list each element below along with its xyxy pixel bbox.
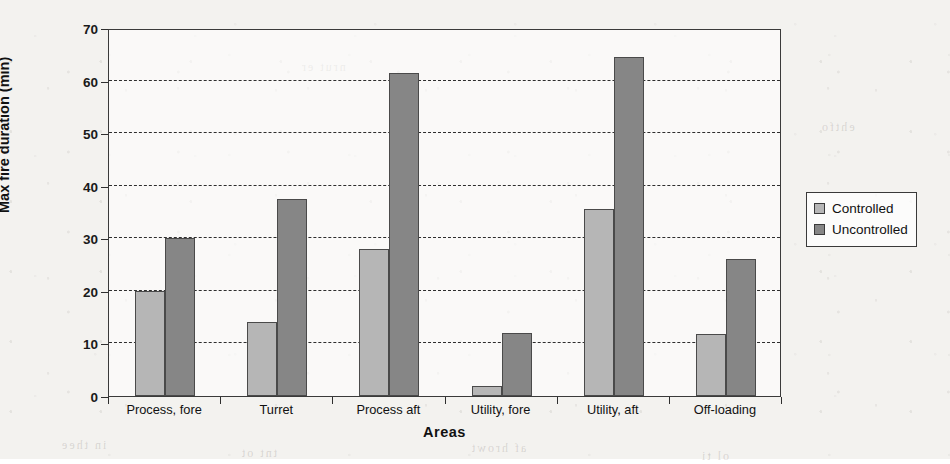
bar-uncontrolled-0 [165, 238, 195, 396]
y-tick-label: 30 [52, 232, 98, 247]
bar-uncontrolled-4 [614, 57, 644, 396]
y-tick-mark [101, 239, 108, 240]
y-tick-mark [101, 397, 108, 398]
x-tick-mark [781, 397, 782, 404]
x-category-label: Utility, aft [587, 402, 639, 417]
y-tick-label: 70 [52, 22, 98, 37]
bar-uncontrolled-3 [502, 333, 532, 396]
legend-label-uncontrolled: Uncontrolled [832, 222, 908, 237]
y-tick-mark [101, 134, 108, 135]
bar-controlled-3 [472, 386, 502, 397]
x-category-label: Process, fore [126, 402, 201, 417]
plot-area [108, 29, 781, 397]
chart-legend: Controlled Uncontrolled [806, 192, 917, 247]
bars-layer [109, 30, 780, 396]
y-tick-label: 40 [52, 179, 98, 194]
y-tick-mark [101, 344, 108, 345]
bar-controlled-4 [584, 209, 614, 396]
legend-item-controlled: Controlled [814, 198, 908, 219]
x-tick-mark [669, 397, 670, 404]
x-category-label: Turret [259, 402, 293, 417]
y-tick-label: 50 [52, 127, 98, 142]
legend-swatch-uncontrolled [814, 224, 825, 235]
y-tick-label: 10 [52, 337, 98, 352]
y-tick-mark [101, 187, 108, 188]
y-tick-label: 0 [52, 390, 98, 405]
bar-controlled-2 [359, 249, 389, 396]
legend-label-controlled: Controlled [832, 201, 894, 216]
x-tick-mark [557, 397, 558, 404]
bar-uncontrolled-2 [389, 73, 419, 396]
x-category-label: Utility, fore [471, 402, 531, 417]
y-tick-mark [101, 82, 108, 83]
bar-controlled-1 [247, 322, 277, 396]
bar-controlled-0 [135, 291, 165, 396]
bar-uncontrolled-5 [726, 259, 756, 396]
x-tick-mark [332, 397, 333, 404]
legend-swatch-controlled [814, 203, 825, 214]
x-tick-mark [445, 397, 446, 404]
y-tick-label: 60 [52, 74, 98, 89]
bar-uncontrolled-1 [277, 199, 307, 396]
y-tick-mark [101, 29, 108, 30]
x-category-label: Off-loading [694, 402, 756, 417]
x-axis-title: Areas [108, 424, 781, 440]
x-category-label: Process aft [356, 402, 420, 417]
x-tick-mark [108, 397, 109, 404]
legend-item-uncontrolled: Uncontrolled [814, 219, 908, 240]
y-tick-mark [101, 292, 108, 293]
bar-controlled-5 [696, 334, 726, 396]
x-tick-mark [220, 397, 221, 404]
y-tick-label: 20 [52, 284, 98, 299]
y-axis-title: Max fire duration (min) [0, 57, 12, 213]
